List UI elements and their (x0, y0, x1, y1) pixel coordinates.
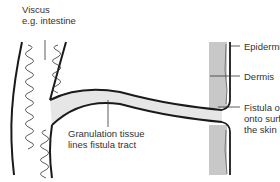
label-viscus: Viscus e.g. intestine (22, 4, 76, 26)
label-granulation-line1: Granulation tissue (68, 128, 145, 139)
label-opening-line1: Fistula opening (244, 102, 280, 113)
fistula-diagram (0, 0, 280, 182)
label-dermis: Dermis (244, 71, 274, 82)
viscus-inner-wall-lower (50, 125, 52, 178)
label-viscus-line1: Viscus (22, 4, 76, 15)
viscus-outer-wall (11, 42, 22, 175)
label-fistula-opening: Fistula opening onto surface of the skin (244, 102, 280, 135)
label-granulation: Granulation tissue lines fistula tract (68, 128, 145, 150)
villi-left (25, 45, 33, 149)
label-opening-line3: the skin (244, 124, 280, 135)
label-granulation-line2: lines fistula tract (68, 139, 145, 150)
label-viscus-line2: e.g. intestine (22, 15, 76, 26)
label-opening-line2: onto surface of (244, 113, 280, 124)
label-epidermis: Epidermis (244, 41, 280, 52)
